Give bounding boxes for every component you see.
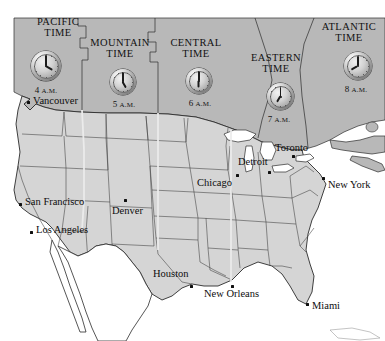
clock-tick <box>275 87 276 88</box>
clock-tick <box>114 77 115 78</box>
clock-tick <box>123 91 124 92</box>
clock-tick <box>280 106 281 107</box>
clock-tick <box>280 86 281 87</box>
clock-tick <box>368 66 369 67</box>
clock-tick <box>366 71 367 72</box>
zone-label-eastern: EASTERN TIME <box>240 53 312 74</box>
city-label: Chicago <box>197 177 232 188</box>
clock-tick <box>285 105 286 106</box>
clock-ampm-text: A.M. <box>196 100 212 108</box>
zone-label-line2: TIME <box>160 49 232 60</box>
clock-tick <box>358 76 359 77</box>
clock-hour-text: 4 <box>35 85 40 95</box>
city-label: San Francisco <box>25 196 84 207</box>
clock-tick <box>34 66 35 67</box>
clock-tick <box>190 85 191 86</box>
zone-label-line2: TIME <box>23 28 93 39</box>
city-label: New York <box>328 179 371 190</box>
clock-tick <box>118 73 119 74</box>
clock-time-atlantic: 8 A.M. <box>331 84 381 94</box>
zone-label-line2: TIME <box>80 49 160 60</box>
clock-time-pacific: 4 A.M. <box>21 85 71 95</box>
zone-label-central: CENTRAL TIME <box>160 38 232 59</box>
clock-tick <box>40 56 41 57</box>
clock-tick <box>46 77 47 78</box>
clock-tick <box>271 101 272 102</box>
clock-tick <box>208 81 209 82</box>
clock-tick <box>127 90 128 91</box>
clock-tick <box>347 66 348 67</box>
clock-tick <box>51 56 52 57</box>
clock-pacific <box>31 51 61 81</box>
clock-tick <box>363 74 364 75</box>
clock-tick <box>40 75 41 76</box>
clock-mountain <box>110 69 136 95</box>
clock-tick <box>363 57 364 58</box>
clock-ampm-text: A.M. <box>275 116 291 124</box>
clock-tick <box>194 72 195 73</box>
clock-tick <box>275 105 276 106</box>
clock-time-central: 6 A.M. <box>175 98 225 108</box>
clock-tick <box>55 71 56 72</box>
clock-tick <box>270 96 271 97</box>
clock-tick <box>352 57 353 58</box>
clock-tick <box>349 60 350 61</box>
city-label: Vancouver <box>33 95 78 106</box>
clock-time-eastern: 7 A.M. <box>254 114 304 124</box>
clock-tick <box>358 55 359 56</box>
clock-hour-text: 7 <box>268 114 273 124</box>
clock-hour-text: 6 <box>189 98 194 108</box>
clock-time-mountain: 5 A.M. <box>99 99 149 109</box>
zone-label-line2: TIME <box>240 64 312 75</box>
clock-ampm-text: A.M. <box>352 86 368 94</box>
clock-tick <box>194 89 195 90</box>
island-shape <box>366 122 378 132</box>
clock-tick <box>57 66 58 67</box>
clock-tick <box>131 77 132 78</box>
clock-tick <box>131 86 132 87</box>
clock-atlantic <box>344 52 372 80</box>
city-label: Toronto <box>275 142 308 153</box>
clock-tick <box>207 76 208 77</box>
clock-tick <box>51 75 52 76</box>
clock-tick <box>203 89 204 90</box>
clock-tick <box>290 96 291 97</box>
city-label: Miami <box>312 300 340 311</box>
time-zone-map: PACIFIC TIME MOUNTAIN TIME CENTRAL TIME … <box>0 0 385 341</box>
city-label: Denver <box>112 205 143 216</box>
clock-central <box>186 68 212 94</box>
clock-tick <box>55 60 56 61</box>
clock-tick <box>46 54 47 55</box>
clock-hour-text: 8 <box>345 84 350 94</box>
nova-scotia <box>350 156 385 172</box>
clock-hub <box>45 65 47 67</box>
clock-tick <box>366 60 367 61</box>
clock-tick <box>271 91 272 92</box>
clock-tick <box>36 60 37 61</box>
caribbean-sliver <box>330 328 380 340</box>
clock-tick <box>190 76 191 77</box>
clock-hub <box>280 96 282 98</box>
maritimes <box>330 136 385 154</box>
clock-tick <box>289 91 290 92</box>
city-label: New Orleans <box>204 288 259 299</box>
clock-tick <box>132 82 133 83</box>
clock-ampm-text: A.M. <box>42 87 58 95</box>
city-label: Los Angeles <box>36 224 88 235</box>
clock-hub <box>198 80 200 82</box>
clock-tick <box>199 90 200 91</box>
zone-label-mountain: MOUNTAIN TIME <box>80 38 160 59</box>
clock-hour-text: 5 <box>113 99 118 109</box>
zone-label-line2: TIME <box>312 33 385 44</box>
clock-tick <box>113 82 114 83</box>
clock-tick <box>349 71 350 72</box>
clock-hub <box>357 65 359 67</box>
clock-tick <box>189 81 190 82</box>
clock-eastern <box>267 83 294 110</box>
clock-tick <box>127 73 128 74</box>
clock-tick <box>285 87 286 88</box>
clock-tick <box>114 86 115 87</box>
zone-label-atlantic: ATLANTIC TIME <box>312 22 385 43</box>
city-label: Houston <box>153 268 189 279</box>
clock-tick <box>352 74 353 75</box>
